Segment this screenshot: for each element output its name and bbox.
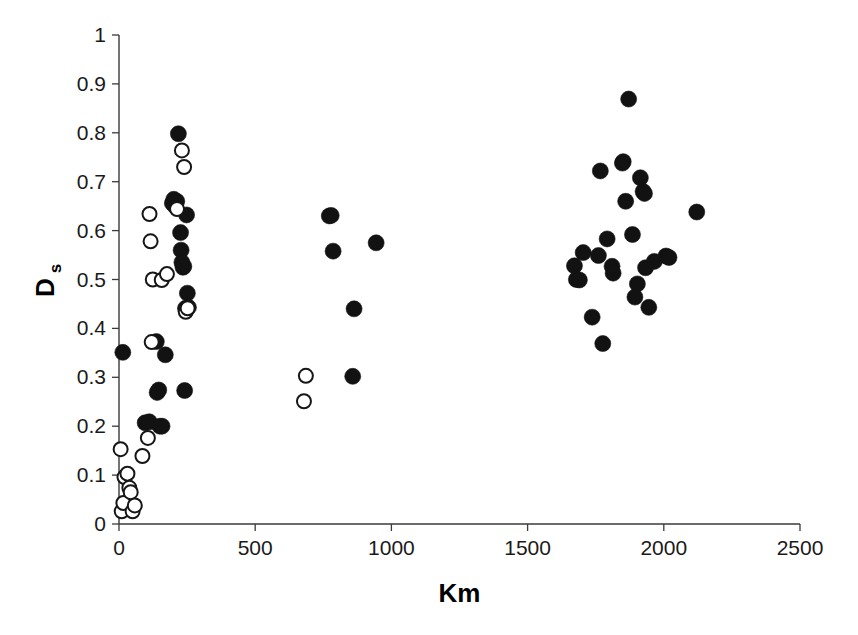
data-point-filled: [689, 204, 705, 220]
data-point-filled: [595, 336, 611, 352]
data-point-open: [120, 467, 134, 481]
data-point-filled: [629, 276, 645, 292]
data-point-filled: [641, 299, 657, 315]
x-tick-label: 1000: [368, 536, 415, 559]
y-tick-label: 0.2: [77, 414, 106, 437]
data-point-filled: [605, 265, 621, 281]
data-point-open: [145, 335, 159, 349]
y-axis-title-base: D: [30, 278, 60, 297]
data-point-filled: [115, 344, 131, 360]
x-tick-label: 500: [238, 536, 273, 559]
data-point-filled: [323, 207, 339, 223]
y-tick-label: 0.9: [77, 72, 106, 95]
y-tick-label: 0: [94, 512, 106, 535]
data-point-open: [135, 449, 149, 463]
data-point-filled: [325, 243, 341, 259]
data-point-filled: [368, 235, 384, 251]
plot-canvas: 00.10.20.30.40.50.60.70.80.9105001000150…: [0, 0, 858, 635]
data-point-filled: [173, 225, 189, 241]
y-tick-label: 0.3: [77, 365, 106, 388]
data-point-open: [143, 207, 157, 221]
y-tick-label: 0.6: [77, 219, 106, 242]
y-tick-label: 0.1: [77, 463, 106, 486]
x-tick-label: 2000: [640, 536, 687, 559]
data-point-filled: [345, 368, 361, 384]
data-point-open: [177, 160, 191, 174]
data-point-filled: [571, 272, 587, 288]
x-tick-label: 1500: [504, 536, 551, 559]
data-point-open: [160, 267, 174, 281]
y-tick-label: 1: [94, 23, 106, 46]
data-point-filled: [584, 309, 600, 325]
data-point-filled: [636, 185, 652, 201]
data-point-filled: [599, 231, 615, 247]
data-point-filled: [590, 248, 606, 264]
data-point-open: [170, 202, 184, 216]
data-point-open: [141, 431, 155, 445]
data-point-open: [175, 143, 189, 157]
data-point-open: [144, 234, 158, 248]
data-point-filled: [661, 250, 677, 266]
y-tick-label: 0.4: [77, 316, 107, 339]
y-tick-label: 0.5: [77, 268, 106, 291]
y-axis-title: Ds: [30, 264, 65, 297]
data-point-open: [124, 485, 138, 499]
data-point-open: [181, 301, 195, 315]
x-axis-title: Km: [439, 578, 481, 608]
data-point-open: [297, 394, 311, 408]
data-point-filled: [176, 258, 192, 274]
data-point-filled: [592, 163, 608, 179]
data-point-filled: [575, 245, 591, 261]
axes-group: [119, 35, 800, 524]
y-tick-label: 0.7: [77, 170, 106, 193]
data-point-filled: [154, 418, 170, 434]
data-point-filled: [346, 301, 362, 317]
data-point-filled: [151, 382, 167, 398]
data-point-open: [114, 442, 128, 456]
scatter-plot-figure: 00.10.20.30.40.50.60.70.80.9105001000150…: [0, 0, 858, 635]
data-point-filled: [177, 383, 193, 399]
data-point-open: [299, 369, 313, 383]
x-tick-label: 2500: [777, 536, 824, 559]
y-axis-title-subscript: s: [46, 264, 65, 273]
data-point-open: [128, 498, 142, 512]
data-point-filled: [179, 285, 195, 301]
data-point-filled: [621, 91, 637, 107]
data-points-group: [114, 91, 705, 518]
data-point-filled: [624, 227, 640, 243]
ticks-group: [112, 35, 800, 531]
data-point-filled: [618, 193, 634, 209]
y-tick-label: 0.8: [77, 121, 106, 144]
data-point-filled: [157, 347, 173, 363]
data-point-filled: [170, 126, 186, 142]
data-point-filled: [632, 170, 648, 186]
x-tick-label: 0: [113, 536, 125, 559]
data-point-filled: [615, 154, 631, 170]
